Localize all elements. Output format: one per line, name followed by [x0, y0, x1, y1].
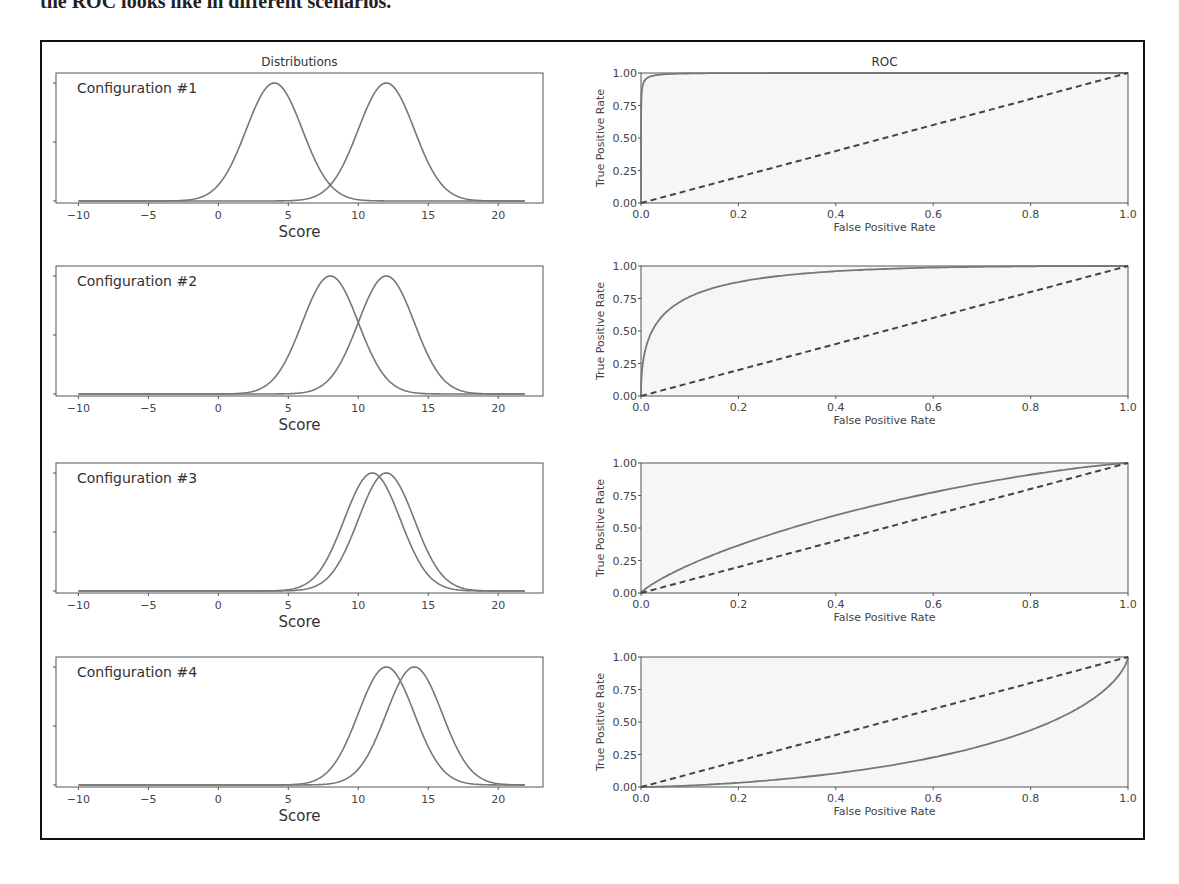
- roc-x-tick-label: 0.2: [730, 401, 748, 414]
- negative-distribution-curve: [78, 83, 524, 201]
- roc-x-tick-label: 1.0: [1119, 401, 1137, 414]
- positive-distribution-curve: [78, 667, 524, 785]
- dist-x-tick-label: −5: [140, 209, 156, 222]
- dist-x-tick-label: 0: [215, 402, 222, 415]
- roc-y-tick-label: 0.25: [613, 358, 638, 371]
- dist-x-tick-label: 10: [351, 402, 365, 415]
- roc-y-tick-label: 0.75: [613, 684, 638, 697]
- roc-y-tick-label: 1.00: [613, 67, 638, 80]
- dist-x-tick-label: 5: [285, 402, 292, 415]
- dist-x-tick-label: −10: [67, 599, 90, 612]
- roc-x-tick-label: 0.0: [632, 792, 650, 805]
- dist-x-tick-label: 10: [351, 793, 365, 806]
- dist-x-tick-label: −10: [67, 209, 90, 222]
- dist-x-tick-label: −5: [140, 793, 156, 806]
- roc-figure: DistributionsROC−10−505101520ScoreConfig…: [0, 0, 1179, 884]
- roc-x-tick-label: 0.4: [827, 401, 845, 414]
- dist-x-tick-label: −10: [67, 793, 90, 806]
- dist-x-tick-label: −5: [140, 402, 156, 415]
- roc-x-tick-label: 0.8: [1022, 598, 1040, 611]
- dist-x-tick-label: 15: [421, 793, 435, 806]
- distributions-title: Distributions: [261, 55, 337, 69]
- configuration-label: Configuration #1: [77, 80, 197, 96]
- roc-x-tick-label: 0.0: [632, 401, 650, 414]
- dist-x-tick-label: 20: [491, 209, 505, 222]
- roc-x-tick-label: 0.8: [1022, 792, 1040, 805]
- dist-x-tick-label: 5: [285, 599, 292, 612]
- positive-distribution-curve: [78, 276, 524, 394]
- roc-y-tick-label: 1.00: [613, 260, 638, 273]
- roc-x-tick-label: 1.0: [1119, 792, 1137, 805]
- roc-x-tick-label: 0.4: [827, 792, 845, 805]
- positive-distribution-curve: [78, 473, 524, 591]
- roc-x-tick-label: 0.0: [632, 598, 650, 611]
- dist-x-tick-label: −5: [140, 599, 156, 612]
- roc-y-tick-label: 1.00: [613, 457, 638, 470]
- negative-distribution-curve: [78, 276, 524, 394]
- dist-x-tick-label: 10: [351, 599, 365, 612]
- dist-x-tick-label: 20: [491, 599, 505, 612]
- dist-x-tick-label: 20: [491, 402, 505, 415]
- roc-y-tick-label: 0.75: [613, 490, 638, 503]
- roc-x-tick-label: 0.6: [924, 401, 942, 414]
- roc-y-tick-label: 0.50: [613, 132, 638, 145]
- score-axis-label: Score: [278, 807, 320, 825]
- roc-y-tick-label: 0.50: [613, 522, 638, 535]
- roc-x-tick-label: 0.6: [924, 792, 942, 805]
- true-positive-rate-label: True Positive Rate: [594, 479, 607, 578]
- true-positive-rate-label: True Positive Rate: [594, 89, 607, 188]
- negative-distribution-curve: [78, 473, 524, 591]
- roc-x-tick-label: 0.0: [632, 208, 650, 221]
- score-axis-label: Score: [278, 613, 320, 631]
- dist-x-tick-label: 0: [215, 599, 222, 612]
- roc-y-tick-label: 0.25: [613, 555, 638, 568]
- dist-x-tick-label: −10: [67, 402, 90, 415]
- true-positive-rate-label: True Positive Rate: [594, 673, 607, 772]
- score-axis-label: Score: [278, 416, 320, 434]
- roc-title: ROC: [871, 55, 897, 69]
- dist-x-tick-label: 15: [421, 599, 435, 612]
- dist-x-tick-label: 5: [285, 793, 292, 806]
- configuration-label: Configuration #3: [77, 470, 197, 486]
- dist-x-tick-label: 20: [491, 793, 505, 806]
- dist-x-tick-label: 15: [421, 402, 435, 415]
- negative-distribution-curve: [78, 667, 524, 785]
- dist-x-tick-label: 10: [351, 209, 365, 222]
- score-axis-label: Score: [278, 223, 320, 241]
- roc-x-tick-label: 1.0: [1119, 208, 1137, 221]
- roc-x-tick-label: 0.4: [827, 598, 845, 611]
- roc-x-tick-label: 1.0: [1119, 598, 1137, 611]
- roc-y-tick-label: 1.00: [613, 651, 638, 664]
- roc-y-tick-label: 0.75: [613, 100, 638, 113]
- false-positive-rate-label: False Positive Rate: [833, 221, 935, 234]
- dist-x-tick-label: 5: [285, 209, 292, 222]
- configuration-label: Configuration #4: [77, 664, 197, 680]
- roc-y-tick-label: 0.50: [613, 716, 638, 729]
- roc-x-tick-label: 0.8: [1022, 401, 1040, 414]
- roc-x-tick-label: 0.6: [924, 208, 942, 221]
- roc-x-tick-label: 0.8: [1022, 208, 1040, 221]
- dist-x-tick-label: 0: [215, 209, 222, 222]
- roc-y-tick-label: 0.25: [613, 165, 638, 178]
- configuration-label: Configuration #2: [77, 273, 197, 289]
- false-positive-rate-label: False Positive Rate: [833, 611, 935, 624]
- false-positive-rate-label: False Positive Rate: [833, 805, 935, 818]
- roc-x-tick-label: 0.6: [924, 598, 942, 611]
- roc-x-tick-label: 0.2: [730, 598, 748, 611]
- dist-x-tick-label: 15: [421, 209, 435, 222]
- dist-x-tick-label: 0: [215, 793, 222, 806]
- false-positive-rate-label: False Positive Rate: [833, 414, 935, 427]
- roc-y-tick-label: 0.25: [613, 749, 638, 762]
- positive-distribution-curve: [78, 83, 524, 201]
- roc-x-tick-label: 0.2: [730, 208, 748, 221]
- roc-y-tick-label: 0.75: [613, 293, 638, 306]
- true-positive-rate-label: True Positive Rate: [594, 282, 607, 381]
- roc-x-tick-label: 0.2: [730, 792, 748, 805]
- roc-x-tick-label: 0.4: [827, 208, 845, 221]
- roc-y-tick-label: 0.50: [613, 325, 638, 338]
